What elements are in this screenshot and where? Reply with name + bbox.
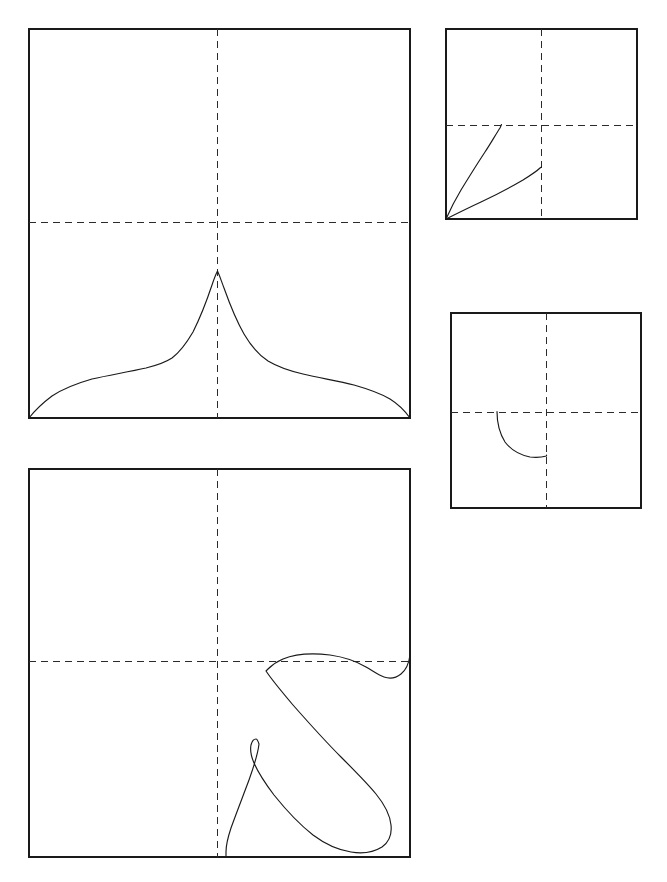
panel-top-left <box>29 29 410 418</box>
panel-middle-right-quarter-arc <box>497 412 547 458</box>
panel-middle-right <box>451 313 641 508</box>
figure-canvas <box>0 0 667 882</box>
panel-top-left-frame <box>29 29 410 418</box>
panel-top-right-shallow-rising-curve <box>446 167 542 219</box>
panel-top-right <box>446 29 637 219</box>
panel-bottom-left-hooked-loop-curve <box>226 654 410 857</box>
figure-root <box>0 0 667 882</box>
panel-bottom-left <box>29 469 410 857</box>
panel-bottom-left-frame <box>29 469 410 857</box>
panel-top-left-peaked-curve <box>29 271 410 418</box>
